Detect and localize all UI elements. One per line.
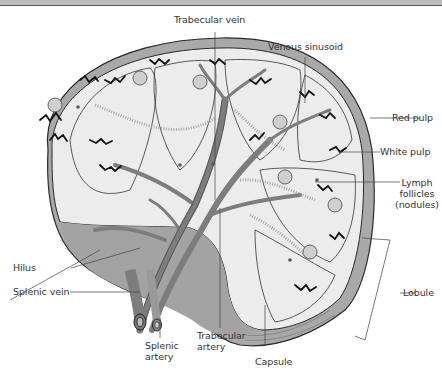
label-trabecular-vein: Trabecular vein	[174, 14, 245, 25]
label-splenic-artery-line2: artery	[145, 351, 179, 362]
label-splenic-artery-line1: Splenic	[145, 340, 179, 351]
label-white-pulp: White pulp	[380, 146, 430, 157]
label-capsule: Capsule	[255, 356, 292, 367]
label-trabecular-artery-line2: artery	[197, 341, 246, 352]
label-lymph-follicles-line1: Lymph	[392, 177, 442, 188]
label-lymph-follicles: Lymph follicles (nodules)	[392, 177, 442, 210]
label-splenic-vein: Splenic vein	[13, 286, 69, 297]
label-hilus: Hilus	[13, 262, 36, 273]
label-trabecular-artery: Trabecular artery	[197, 330, 246, 352]
label-lobule: Lobule	[403, 287, 434, 298]
label-lymph-follicles-line2: follicles	[392, 188, 442, 199]
spleen-illustration	[0, 0, 442, 376]
label-red-pulp: Red pulp	[392, 112, 433, 123]
label-lymph-follicles-line3: (nodules)	[392, 199, 442, 210]
label-splenic-artery: Splenic artery	[145, 340, 179, 362]
label-trabecular-artery-line1: Trabecular	[197, 330, 246, 341]
label-venous-sinusoid: Venous sinusoid	[268, 41, 343, 52]
